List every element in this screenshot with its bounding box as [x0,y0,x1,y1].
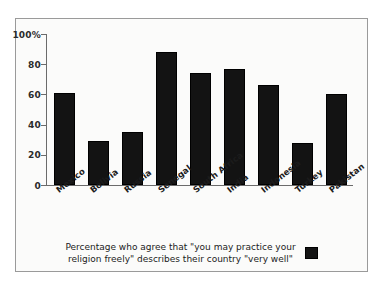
bar [190,73,211,185]
bar-series [47,34,353,185]
bar [156,52,177,185]
bar [54,93,75,185]
caption-line-1: Percentage who agree that "you may pract… [65,242,295,252]
chart-caption-legend: Percentage who agree that "you may pract… [16,241,367,265]
y-tick-label: 60 [28,90,41,100]
x-axis-labels: MexicoBoliviaRussiaSenegalSouth AfricaIn… [46,187,353,249]
caption-line-2: religion freely" describes their country… [68,254,293,264]
y-tick-mark [41,185,47,186]
legend-swatch [305,247,318,259]
chart-figure: 020406080100% MexicoBoliviaRussiaSenegal… [15,18,368,272]
y-tick-label: 40 [28,120,41,130]
y-tick-label: 20 [28,150,41,160]
y-tick-label: 100% [12,30,41,40]
y-tick-label: 80 [28,60,41,70]
y-tick-label: 0 [35,181,41,191]
bar [326,94,347,185]
caption-text: Percentage who agree that "you may pract… [65,241,295,265]
plot-area: 020406080100% [46,34,353,185]
bar [258,85,279,185]
